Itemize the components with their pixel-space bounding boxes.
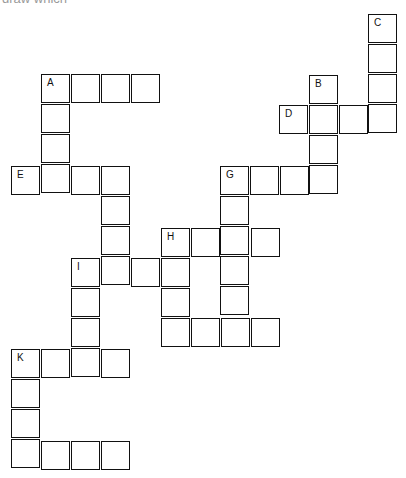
crossword-cell[interactable] [251, 318, 280, 347]
crossword-cell[interactable] [220, 286, 249, 315]
crossword-cell[interactable] [191, 318, 220, 347]
crossword-cell[interactable] [71, 288, 100, 317]
crossword-cell[interactable]: B [309, 75, 338, 104]
crossword-cell[interactable] [71, 441, 100, 470]
crossword-cell[interactable] [250, 166, 279, 195]
crossword-cell[interactable]: H [161, 228, 190, 257]
crossword-cell[interactable] [101, 349, 130, 378]
crossword-cell[interactable] [221, 318, 250, 347]
clue-number-label: A [47, 77, 54, 89]
crossword-cell[interactable] [11, 409, 40, 438]
crossword-cell[interactable] [309, 135, 338, 164]
crossword-cell[interactable] [368, 74, 397, 103]
crossword-cell[interactable] [161, 288, 190, 317]
clue-number-label: D [285, 108, 292, 120]
clue-number-label: C [374, 17, 381, 29]
crossword-cell[interactable] [71, 348, 100, 377]
crossword-cell[interactable] [41, 134, 70, 163]
crossword-cell[interactable]: D [279, 105, 308, 134]
crossword-cell[interactable]: E [11, 166, 40, 195]
crossword-cell[interactable]: C [368, 14, 397, 43]
crossword-cell[interactable] [41, 349, 70, 378]
cut-off-instruction-text: draw which [2, 0, 67, 6]
crossword-cell[interactable]: I [71, 258, 100, 287]
crossword-cell[interactable] [368, 104, 397, 133]
crossword-cell[interactable] [161, 258, 190, 287]
crossword-cell[interactable] [191, 228, 220, 257]
crossword-cell[interactable] [309, 105, 338, 134]
crossword-cell[interactable] [251, 228, 280, 257]
crossword-cell[interactable] [101, 256, 130, 285]
crossword-cell[interactable] [41, 104, 70, 133]
crossword-cell[interactable] [220, 196, 249, 225]
crossword-cell[interactable] [309, 165, 338, 194]
clue-number-label: B [315, 78, 322, 90]
crossword-cell[interactable] [161, 318, 190, 347]
crossword-cell[interactable] [131, 74, 160, 103]
crossword-cell[interactable] [41, 441, 70, 470]
crossword-cell[interactable]: G [220, 166, 249, 195]
crossword-cell[interactable] [280, 166, 309, 195]
crossword-cell[interactable]: A [41, 74, 70, 103]
crossword-cell[interactable] [220, 226, 249, 255]
clue-number-label: I [77, 261, 80, 273]
clue-number-label: H [167, 231, 174, 243]
clue-number-label: E [17, 169, 24, 181]
crossword-cell[interactable] [71, 318, 100, 347]
crossword-cell[interactable] [131, 258, 160, 287]
crossword-cell[interactable] [11, 439, 40, 468]
crossword-cell[interactable] [101, 74, 130, 103]
crossword-cell[interactable]: K [11, 349, 40, 378]
crossword-cell[interactable] [101, 441, 130, 470]
crossword-cell[interactable] [101, 166, 130, 195]
crossword-cell[interactable] [220, 256, 249, 285]
crossword-cell[interactable] [11, 379, 40, 408]
crossword-cell[interactable] [71, 74, 100, 103]
crossword-cell[interactable] [368, 44, 397, 73]
crossword-cell[interactable] [101, 226, 130, 255]
crossword-cell[interactable] [101, 196, 130, 225]
crossword-cell[interactable] [339, 105, 368, 134]
clue-number-label: G [226, 169, 234, 181]
clue-number-label: K [17, 352, 24, 364]
crossword-cell[interactable] [71, 166, 100, 195]
crossword-cell[interactable] [41, 164, 70, 193]
